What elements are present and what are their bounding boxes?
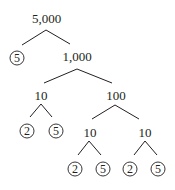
prime-label: 2 bbox=[24, 124, 30, 138]
prime-label: 5 bbox=[14, 51, 20, 65]
prime-label: 5 bbox=[155, 162, 161, 176]
node-5000: 5,000 bbox=[32, 11, 61, 26]
node-10-left: 10 bbox=[84, 125, 97, 140]
node-1000: 1,000 bbox=[62, 49, 91, 64]
edge-10b-2 bbox=[78, 141, 89, 155]
prime-label: 2 bbox=[127, 162, 133, 176]
edge-10-2 bbox=[30, 104, 41, 117]
prime-label: 5 bbox=[53, 124, 59, 138]
edge-5000-1000 bbox=[46, 30, 70, 44]
edge-1000-10 bbox=[44, 69, 77, 83]
edge-1000-100 bbox=[77, 69, 112, 83]
factor-tree-svg: 5,000 1,000 10 100 10 10 5 2 5 2 5 2 bbox=[0, 0, 175, 190]
prime-label: 5 bbox=[100, 162, 106, 176]
prime-node-2: 2 bbox=[68, 162, 82, 176]
edge-10-5 bbox=[41, 104, 52, 117]
edge-10c-2 bbox=[134, 141, 145, 155]
prime-node-5: 5 bbox=[151, 162, 165, 176]
prime-label: 2 bbox=[72, 162, 78, 176]
prime-node-2: 2 bbox=[123, 162, 137, 176]
prime-node-5: 5 bbox=[96, 162, 110, 176]
factor-tree-diagram: 5,000 1,000 10 100 10 10 5 2 5 2 5 2 bbox=[0, 0, 175, 190]
node-10-right: 10 bbox=[139, 125, 152, 140]
node-100: 100 bbox=[106, 88, 126, 103]
prime-node-2: 2 bbox=[20, 124, 34, 138]
node-10: 10 bbox=[35, 88, 48, 103]
edge-10b-5 bbox=[89, 141, 101, 155]
edge-5000-5 bbox=[22, 30, 46, 45]
edge-100-10-right bbox=[115, 105, 139, 119]
prime-node-5: 5 bbox=[49, 124, 63, 138]
prime-node-5: 5 bbox=[10, 51, 24, 65]
edge-100-10-left bbox=[92, 105, 115, 119]
edge-10c-5 bbox=[145, 141, 157, 155]
